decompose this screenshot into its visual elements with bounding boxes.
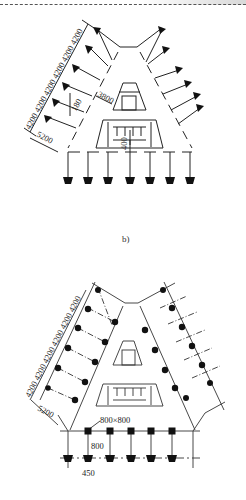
dim-3800-a: 3800	[96, 89, 116, 106]
diagram-b	[30, 282, 225, 468]
dim-800: 800	[91, 441, 104, 451]
dim-400-a: 400	[119, 137, 129, 150]
dim-left-chain-a: 4200 4200 4200 4200 4200 4200	[23, 27, 85, 131]
dim-pile-size: 800×800	[100, 415, 130, 425]
dim-5200-a: 5200	[35, 129, 55, 146]
bottom-arms	[68, 140, 190, 178]
dim-left-chain-b: 4200 4200 4200 4200 4200 4200	[23, 294, 83, 399]
dim-5200-b: 5200	[36, 403, 56, 420]
dim-450: 450	[82, 468, 95, 478]
right-arms	[146, 30, 200, 124]
caption-b: b)	[122, 234, 130, 244]
foundation-plan-drawing: 4200 4200 4200 4200 4200 4200 5200 180 3…	[0, 0, 246, 500]
